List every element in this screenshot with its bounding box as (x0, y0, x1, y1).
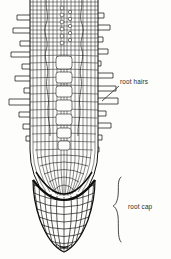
root-body (30, 0, 98, 216)
root-cap-brace (113, 177, 121, 242)
root-hairs-label-text: root hairs (120, 78, 148, 85)
figure-page: root hairs root cap (0, 0, 171, 259)
root-tip-diagram: root hairs root cap (0, 0, 171, 259)
label-root-cap[interactable]: root cap (113, 177, 153, 242)
root-cap-label-text: root cap (128, 203, 153, 211)
